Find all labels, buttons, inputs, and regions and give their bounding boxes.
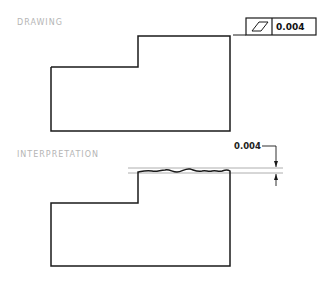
arrow-up-icon: [274, 174, 278, 180]
flatness-dimension: 0.004: [234, 141, 278, 186]
flatness-diagram: 0.004 0.004: [0, 0, 319, 284]
feature-control-frame: 0.004: [246, 18, 316, 35]
fcf-tolerance-value: 0.004: [276, 22, 304, 32]
drawing-part-outline: [51, 36, 230, 131]
interpretation-part-outline: [51, 169, 230, 266]
arrow-down-icon: [274, 161, 278, 167]
dimension-value: 0.004: [234, 141, 261, 151]
